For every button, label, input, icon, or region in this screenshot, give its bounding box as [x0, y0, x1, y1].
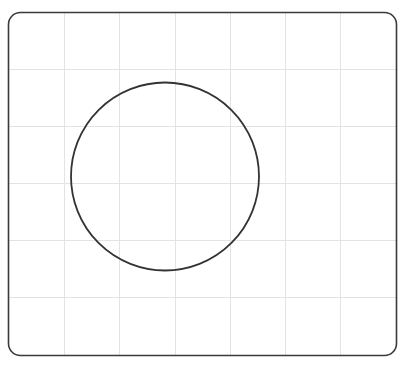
- diagram-canvas: [0, 0, 408, 368]
